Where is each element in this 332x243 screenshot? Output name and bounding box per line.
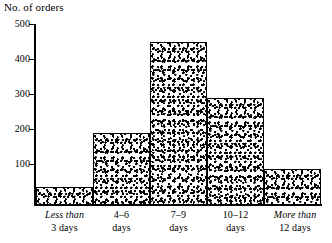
y-axis-line [34,24,36,206]
y-tick-label-300: 300 [4,89,30,99]
x-category-label-0: Less than 3 days [36,209,93,234]
bar-more-than-12-days [264,169,321,205]
y-axis-title: No. of orders [4,1,64,13]
x-category-label-4-line1: More than [264,209,326,222]
x-category-label-2-line2: days [150,222,207,235]
histogram-chart: No. of orders 500 400 300 200 100 Less t… [0,0,332,243]
x-category-label-4: More than 12 days [264,209,326,234]
bar-10-12-days [207,98,264,205]
x-category-label-1: 4–6 days [93,209,150,234]
y-tick-label-100: 100 [4,159,30,169]
bar-7-9-days [150,42,207,205]
y-tick-mark-400 [29,59,35,60]
x-category-label-1-line2: days [93,222,150,235]
x-category-label-3: 10–12 days [207,209,264,234]
x-category-label-3-line2: days [207,222,264,235]
x-category-label-4-line2: 12 days [264,222,326,235]
y-tick-label-400: 400 [4,54,30,64]
x-category-label-1-line1: 4–6 [93,209,150,222]
y-tick-mark-100 [29,164,35,165]
y-tick-label-200: 200 [4,124,30,134]
x-category-label-2-line1: 7–9 [150,209,207,222]
bar-less-than-3-days [36,187,93,205]
y-tick-mark-200 [29,129,35,130]
y-tick-label-500: 500 [4,19,30,29]
bar-4-6-days [93,133,150,205]
x-category-label-0-line2: 3 days [36,222,93,235]
y-tick-mark-300 [29,94,35,95]
x-category-label-0-line1: Less than [36,209,93,222]
x-category-label-3-line1: 10–12 [207,209,264,222]
y-tick-mark-500 [29,24,35,25]
x-category-label-2: 7–9 days [150,209,207,234]
